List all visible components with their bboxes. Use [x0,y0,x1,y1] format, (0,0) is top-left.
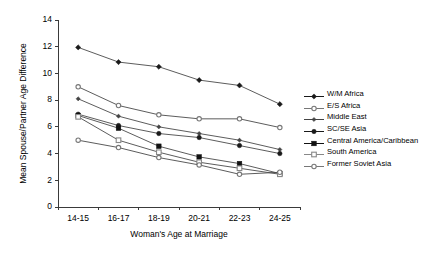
legend-marker-open-square-icon [303,146,325,157]
data-point-marker [312,106,316,110]
data-point-marker [116,138,121,143]
data-point-marker [157,131,161,135]
legend-item[interactable]: Former Soviet Asia [303,158,425,170]
data-point-marker [156,64,161,69]
legend-marker-open-circle-icon [303,158,325,169]
legend-marker-filled-square-icon [303,135,325,146]
data-point-marker [278,147,282,151]
data-point-marker [157,155,161,159]
y-axis-title: Mean Spouse/Partner Age Difference [18,43,28,184]
legend-item[interactable]: E/S Africa [303,100,425,112]
data-point-marker [157,150,162,155]
legend-item-label: Middle East [325,111,367,122]
legend-item[interactable]: Central America/Caribbean [303,134,425,146]
data-point-marker [278,170,282,174]
data-point-marker [277,102,282,107]
data-point-marker [76,97,80,101]
legend-marker-filled-circle-icon [303,123,325,134]
data-point-marker [197,155,202,160]
legend-item[interactable]: SC/SE Asia [303,123,425,135]
chart-legend: W/M AfricaE/S AfricaMiddle EastSC/SE Asi… [303,88,425,169]
legend-item-label: E/S Africa [325,100,360,111]
data-point-marker [237,161,242,166]
data-point-marker [312,118,316,122]
data-point-marker [197,117,201,121]
series-2 [76,85,282,130]
y-axis-tick-label: 0 [47,201,52,211]
data-point-marker [116,126,121,131]
data-point-marker [76,45,81,50]
x-axis-tick-label: 20-21 [188,213,210,223]
data-point-marker [312,152,317,157]
series-line [78,87,280,128]
y-axis-tick-label: 2 [47,175,52,185]
x-axis-tick-label: 14-15 [67,213,89,223]
series-1 [76,45,283,107]
data-point-marker [157,113,161,117]
legend-item[interactable]: W/M Africa [303,88,425,100]
legend-item-label: W/M Africa [325,88,364,99]
x-axis-tick-label: 18-19 [148,213,170,223]
data-point-marker [312,129,316,133]
data-point-marker [157,125,161,129]
data-point-marker [278,125,282,129]
data-point-marker [237,143,241,147]
legend-item-label: South America [325,146,376,157]
data-point-marker [237,172,241,176]
series-line [78,116,280,174]
data-point-marker [116,59,121,64]
series-line [78,99,280,150]
data-point-marker [312,141,317,146]
data-point-marker [278,151,282,155]
y-axis-tick-label: 12 [43,41,53,51]
x-axis-tick-label: 22-23 [229,213,251,223]
y-axis-tick-label: 14 [43,14,53,24]
chart-series-group [76,45,283,177]
legend-item-label: Central America/Caribbean [325,135,418,146]
data-point-marker [76,138,80,142]
data-point-marker [157,144,162,149]
data-point-marker [311,94,316,99]
legend-item-label: SC/SE Asia [325,123,366,134]
data-point-marker [237,138,241,142]
chart-figure: 0246810121414-1516-1718-1920-2122-2324-2… [0,0,426,262]
data-point-marker [76,85,80,89]
legend-item[interactable]: South America [303,146,425,158]
data-point-marker [237,117,241,121]
legend-marker-filled-diamond-icon [303,88,325,99]
data-point-marker [237,83,242,88]
data-point-marker [116,114,120,118]
data-point-marker [197,135,201,139]
data-point-marker [197,78,202,83]
legend-marker-open-circle-icon [303,100,325,111]
data-point-marker [237,166,242,171]
chart-axes [55,20,300,210]
y-axis-tick-label: 8 [47,94,52,104]
data-point-marker [197,131,201,135]
data-point-marker [312,164,316,168]
y-axis-tick-label: 10 [43,68,53,78]
y-axis-tick-label: 4 [47,148,52,158]
chart-axis-labels: 0246810121414-1516-1718-1920-2122-2324-2… [18,14,291,239]
x-axis-title: Woman's Age at Marriage [130,229,228,239]
y-axis-tick-label: 6 [47,121,52,131]
legend-marker-filled-diamond-small-icon [303,111,325,122]
x-axis-tick-label: 16-17 [108,213,130,223]
data-point-marker [116,145,120,149]
data-point-marker [76,115,81,120]
legend-item-label: Former Soviet Asia [325,158,391,169]
series-line [78,47,280,104]
x-axis-tick-label: 24-25 [269,213,291,223]
data-point-marker [197,163,201,167]
legend-item[interactable]: Middle East [303,111,425,123]
data-point-marker [116,103,120,107]
